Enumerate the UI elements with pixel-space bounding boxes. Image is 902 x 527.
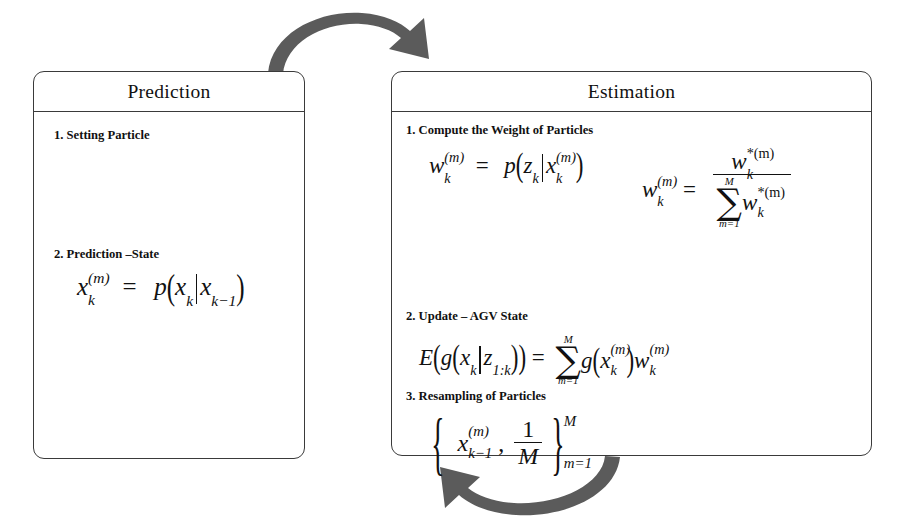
ex-open-paren-2: ( bbox=[452, 341, 460, 374]
wn-den-w: w bbox=[742, 190, 757, 215]
ex-token-x: x bbox=[460, 345, 470, 370]
wl-sup-m: (m) bbox=[444, 150, 464, 164]
wl-token-x: x bbox=[546, 153, 556, 178]
wl-x-sub-k: k bbox=[556, 171, 562, 185]
formula-sub-k2: k bbox=[186, 292, 193, 309]
wl-token-open-paren: ( bbox=[516, 149, 524, 182]
wn-num-w: w bbox=[731, 149, 746, 174]
ex-open-paren-3: ( bbox=[592, 343, 600, 376]
prediction-step-2-label: 2. Prediction –State bbox=[54, 247, 159, 262]
formula-sup-m: (m) bbox=[88, 270, 110, 286]
estimation-step-1-label: 1. Compute the Weight of Particles bbox=[406, 123, 593, 138]
ex-summation: M∑m=1 bbox=[556, 334, 581, 386]
wn-numerator: w*(m)k bbox=[713, 150, 792, 173]
rs-frac-den: M bbox=[514, 444, 542, 468]
formula-sub-km1: k−1 bbox=[211, 292, 236, 309]
prediction-step-1-label: 1. Setting Particle bbox=[54, 128, 149, 143]
ex-term-sub: k bbox=[610, 363, 616, 377]
ex-sub-k: k bbox=[470, 362, 476, 378]
rs-x-sup: (m) bbox=[468, 424, 489, 439]
estimation-panel: Estimation 1. Compute the Weight of Part… bbox=[391, 71, 872, 456]
formula-token-close-paren: ) bbox=[236, 268, 244, 304]
resampling-formula: { x(m)k−1, 1 M }Mm=1 bbox=[432, 417, 564, 468]
ex-token-g: g bbox=[441, 345, 453, 370]
prediction-panel-header: Prediction bbox=[34, 72, 304, 112]
wn-sub-k: k bbox=[657, 194, 663, 208]
ex-close-paren-3: ) bbox=[626, 343, 634, 376]
ex-sub-1k: 1:k bbox=[493, 362, 511, 378]
wn-token-equals: = bbox=[683, 177, 696, 202]
ex-token-E: E bbox=[419, 345, 433, 370]
formula-token-equals: = bbox=[123, 273, 137, 300]
ex-w-sub: k bbox=[649, 363, 655, 377]
prediction-panel-body: 1. Setting Particle 2. Prediction –State… bbox=[34, 112, 304, 458]
wn-token-w: w bbox=[642, 177, 657, 202]
formula-token-open-paren: ( bbox=[167, 268, 175, 304]
sigma-icon: ∑ bbox=[717, 187, 742, 218]
ex-token-w: w bbox=[634, 348, 649, 373]
weight-normalization-formula: w(m)k = w*(m)k M∑m=1w*(m)k bbox=[642, 150, 791, 228]
ex-sum-lower: m=1 bbox=[556, 375, 581, 386]
formula-token-xkm1: x bbox=[200, 273, 211, 300]
sigma-icon: ∑ bbox=[556, 345, 581, 376]
rs-fraction: 1 M bbox=[514, 417, 542, 468]
rs-close-brace: } bbox=[551, 407, 564, 478]
estimation-step-3-label: 3. Resampling of Particles bbox=[406, 389, 546, 404]
prediction-state-formula: x(m)k = p(xkxk−1) bbox=[77, 274, 245, 304]
estimation-panel-header: Estimation bbox=[392, 72, 871, 112]
wl-x-sup-m: (m) bbox=[556, 150, 576, 164]
estimation-title: Estimation bbox=[588, 81, 676, 103]
wn-sup-m: (m) bbox=[657, 174, 677, 188]
wl-token-equals: = bbox=[476, 153, 489, 178]
rs-brace-sup: M bbox=[564, 414, 576, 429]
estimation-panel-body: 1. Compute the Weight of Particles w(m)k… bbox=[392, 112, 871, 455]
prediction-title: Prediction bbox=[127, 81, 210, 103]
rs-token-x: x bbox=[458, 430, 469, 456]
wl-sub-zk: k bbox=[532, 170, 538, 186]
wn-fraction: w*(m)k M∑m=1w*(m)k bbox=[713, 150, 792, 228]
ex-term-x: x bbox=[600, 348, 610, 373]
ex-token-g2: g bbox=[581, 348, 593, 373]
wl-token-close-paren: ) bbox=[576, 149, 584, 182]
wn-num-sup: *(m) bbox=[747, 146, 775, 160]
formula-token-p: p bbox=[154, 273, 167, 300]
wn-num-sub: k bbox=[747, 167, 753, 181]
ex-close-paren-2: ) bbox=[511, 341, 519, 374]
ex-token-equals: = bbox=[532, 345, 545, 370]
ex-w-sup: (m) bbox=[649, 342, 669, 356]
rs-brace-sub: m=1 bbox=[564, 456, 592, 471]
expectation-formula: E(g(xkz1:k)) = M∑m=1g(x(m)k)w(m)k bbox=[419, 334, 649, 386]
wl-conditional-bar bbox=[542, 154, 543, 182]
wn-den-sup: *(m) bbox=[757, 185, 785, 199]
wl-token-w: w bbox=[429, 153, 444, 178]
wn-summation: M∑m=1 bbox=[717, 176, 742, 228]
ex-open-paren-1: ( bbox=[433, 341, 441, 374]
wl-sub-k: k bbox=[444, 171, 450, 185]
wn-sum-lower: m=1 bbox=[717, 218, 742, 229]
arrow-prediction-to-estimation bbox=[268, 13, 429, 74]
ex-close-paren-1: ) bbox=[518, 341, 526, 374]
weight-likelihood-formula: w(m)k = p(zkx(m)k ) bbox=[429, 154, 584, 182]
wn-den-sub: k bbox=[757, 205, 763, 219]
diagram-canvas: Prediction 1. Setting Particle 2. Predic… bbox=[0, 0, 902, 527]
formula-sub-k: k bbox=[88, 292, 95, 308]
formula-conditional-bar bbox=[196, 274, 197, 304]
prediction-panel: Prediction 1. Setting Particle 2. Predic… bbox=[33, 71, 305, 459]
formula-token-x: x bbox=[77, 273, 88, 300]
estimation-step-2-label: 2. Update – AGV State bbox=[406, 309, 528, 324]
rs-open-brace: { bbox=[431, 407, 444, 478]
ex-token-z: z bbox=[484, 345, 493, 370]
wn-denominator: M∑m=1w*(m)k bbox=[713, 176, 792, 228]
ex-conditional-bar bbox=[479, 346, 480, 374]
rs-x-sub: k−1 bbox=[468, 446, 492, 461]
wl-token-p: p bbox=[504, 153, 516, 178]
rs-comma: , bbox=[498, 430, 504, 456]
formula-token-xk: x bbox=[175, 273, 186, 300]
rs-frac-num: 1 bbox=[514, 417, 542, 441]
